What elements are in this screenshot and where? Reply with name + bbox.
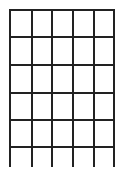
grid-horizontal-line [9,119,115,121]
grid-vertical-line [31,9,33,167]
grid-vertical-line [51,9,53,167]
grid-diagram [0,0,127,180]
grid-horizontal-line [9,92,115,94]
grid-horizontal-line [9,146,115,148]
grid-horizontal-line [9,36,115,38]
grid-vertical-line [113,9,115,167]
grid-vertical-line [72,9,74,167]
grid-vertical-line [9,9,11,167]
grid-vertical-line [93,9,95,167]
grid-horizontal-line [9,64,115,66]
grid-horizontal-line [9,9,115,11]
